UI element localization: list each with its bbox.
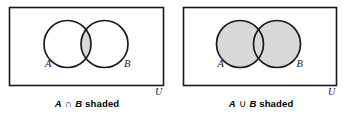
universal-set-label: U	[328, 86, 336, 97]
venn-panel-union: A B U A ∪ B shaded	[174, 0, 346, 98]
caption-set-b: B	[249, 98, 256, 109]
caption-union: A ∪ B shaded	[174, 98, 346, 109]
caption-intersection: A ∩ B shaded	[0, 98, 174, 109]
set-b-label: B	[297, 58, 304, 69]
venn-diagram-union: A B U	[174, 0, 346, 98]
venn-diagram-figure: A B U A ∩ B shaded A B U A ∪	[0, 0, 346, 121]
caption-suffix: shaded	[259, 98, 293, 109]
set-a-label: A	[44, 58, 52, 69]
caption-set-a: A	[229, 98, 236, 109]
universal-set-label: U	[155, 86, 163, 97]
caption-suffix: shaded	[85, 98, 119, 109]
caption-set-a: A	[55, 98, 62, 109]
set-b-label: B	[124, 58, 131, 69]
venn-panel-intersection: A B U A ∩ B shaded	[0, 0, 174, 98]
set-a-label: A	[217, 58, 225, 69]
caption-operator-icon: ∪	[238, 98, 246, 109]
caption-set-b: B	[75, 98, 82, 109]
caption-operator-icon: ∩	[65, 98, 73, 109]
venn-diagram-intersection: A B U	[0, 0, 174, 98]
